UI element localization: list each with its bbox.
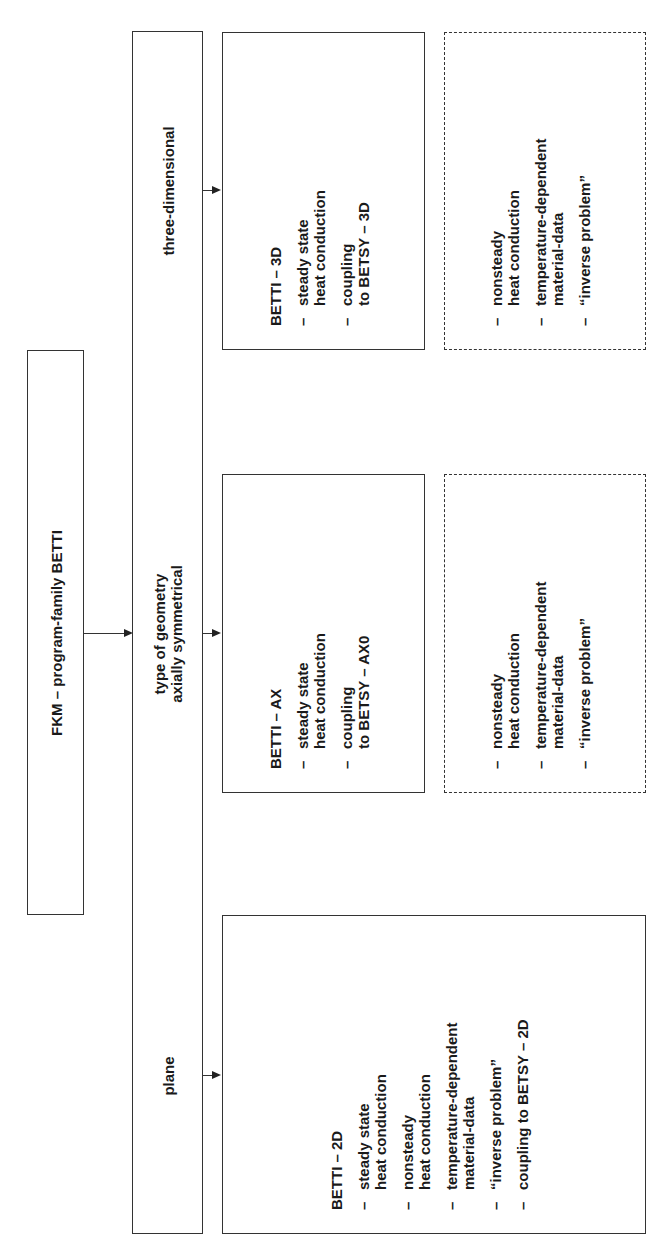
arrowhead-icon <box>212 1071 221 1079</box>
arrowhead-icon <box>212 186 221 194</box>
betti-3d-title: BETTI – 3D <box>266 56 283 326</box>
list-item: –steady state heat conduction <box>355 940 389 1210</box>
arrowhead-icon <box>212 629 221 637</box>
betti-2d-content: BETTI – 2D –steady state heat conduction… <box>328 940 541 1210</box>
betti-ax-title: BETTI – AX <box>266 499 283 769</box>
root-label: FKM – program-family BETTI <box>47 530 64 736</box>
list-item: –temperature-dependent material-data <box>443 940 477 1210</box>
list-item: –coupling to BETSY – AX0 <box>337 499 371 769</box>
list-item: –steady state heat conduction <box>293 499 327 769</box>
list-item: –coupling to BETSY – 2D <box>514 940 531 1210</box>
betti-3d-planned-box: –nonsteady heat conduction –temperature-… <box>444 32 646 350</box>
list-item: –nonsteady heat conduction <box>488 56 522 326</box>
root-box: FKM – program-family BETTI <box>27 350 84 915</box>
betti-ax-planned-content: –nonsteady heat conduction –temperature-… <box>488 499 603 769</box>
list-item: –steady state heat conduction <box>293 56 327 326</box>
betti-2d-title: BETTI – 2D <box>328 940 345 1210</box>
list-item: –temperature-dependent material-data <box>532 56 566 326</box>
list-item: –“inverse problem” <box>487 940 504 1210</box>
list-item: –“inverse problem” <box>576 56 593 326</box>
geometry-axially-symmetrical-label: axially symmetrical <box>168 565 185 703</box>
betti-3d-box: BETTI – 3D –steady state heat conduction… <box>222 32 425 350</box>
list-item: –nonsteady heat conduction <box>488 499 522 769</box>
list-item: –nonsteady heat conduction <box>399 940 433 1210</box>
betti-2d-box: BETTI – 2D –steady state heat conduction… <box>222 915 646 1234</box>
betti-ax-box: BETTI – AX –steady state heat conduction… <box>222 474 425 793</box>
list-item: –“inverse problem” <box>576 499 593 769</box>
geometry-three-dimensional-label: three-dimensional <box>159 126 176 255</box>
betti-ax-planned-box: –nonsteady heat conduction –temperature-… <box>444 474 646 793</box>
betti-ax-content: BETTI – AX –steady state heat conduction… <box>266 499 381 769</box>
geometry-type-of-geometry-label: type of geometry <box>151 565 168 703</box>
geometry-type-column: three-dimensional type of geometry axial… <box>132 31 203 1234</box>
geometry-plane-label: plane <box>159 1056 176 1095</box>
list-item: –temperature-dependent material-data <box>532 499 566 769</box>
geometry-type-label-group: type of geometry axially symmetrical <box>151 565 185 703</box>
betti-3d-planned-content: –nonsteady heat conduction –temperature-… <box>488 56 603 326</box>
list-item: –coupling to BETSY – 3D <box>337 56 371 326</box>
connector-root-to-geometry <box>84 633 124 634</box>
betti-3d-content: BETTI – 3D –steady state heat conduction… <box>266 56 381 326</box>
